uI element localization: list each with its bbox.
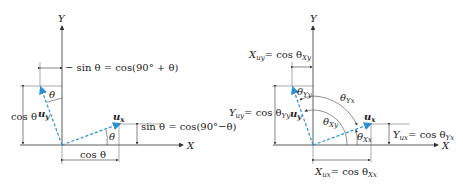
left-diagram: Y X − sin θ = cos(90° + θ) cos θ sin θ =… <box>11 13 236 164</box>
right-diagram: Y X Xuy= cos θXy Yuy= cos θYy Yux= cos θ… <box>229 13 454 179</box>
left-angle-arc-ux <box>106 130 107 145</box>
left-ux-label: ux <box>113 111 125 124</box>
right-angle-theta-Yy-label: θYy <box>297 86 313 99</box>
right-top-dim-label: Xuy= cos θXy <box>248 49 312 62</box>
right-ux-label: ux <box>364 111 376 124</box>
left-uy-label: uy <box>38 108 50 121</box>
left-y-axis-label: Y <box>58 13 66 24</box>
right-right-dim-label: Yux= cos θYx <box>393 129 454 142</box>
right-angle-theta-Xy-label: θXy <box>323 116 339 129</box>
left-top-dim-label: − sin θ = cos(90° + θ) <box>65 62 178 73</box>
left-bottom-dim-label: cos θ <box>80 149 106 160</box>
diagram-canvas: Y X − sin θ = cos(90° + θ) cos θ sin θ =… <box>0 0 463 184</box>
right-angle-theta-Yx-label: θYx <box>340 92 355 105</box>
right-left-dim-label: Yuy= cos θYy <box>229 107 291 120</box>
right-angle-theta-Xx-label: θXx <box>357 131 372 144</box>
left-angle-ux-label: θ <box>109 131 115 142</box>
left-angle-uy-label: θ <box>49 89 55 100</box>
left-right-dim-label: sin θ = cos(90°−θ) <box>141 121 236 132</box>
right-bottom-dim-label: Xux= cos θXx <box>314 166 377 179</box>
left-left-dim-label: cos θ <box>11 111 37 122</box>
right-y-axis-label: Y <box>310 13 318 24</box>
left-x-axis-label: X <box>186 140 195 151</box>
